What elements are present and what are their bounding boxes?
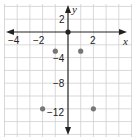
coordinate-plane: −4 −2 2 x 2 −4 −8 −12 y <box>0 0 133 140</box>
y-tick-label-neg12: −12 <box>47 107 64 118</box>
x-tick-label-neg4: −4 <box>8 35 20 46</box>
point-2-neg12 <box>91 106 96 111</box>
point-neg2-neg12 <box>40 106 45 111</box>
x-tick-label-2: 2 <box>90 35 96 46</box>
y-axis-down-arrow-icon <box>65 127 71 135</box>
y-tick-label-neg4: −4 <box>53 53 65 64</box>
y-tick-label-2: 2 <box>59 14 65 25</box>
x-tick-label-neg2: −2 <box>33 35 45 46</box>
y-axis-label: y <box>71 3 77 15</box>
point-origin <box>65 29 70 34</box>
point-1-neg3 <box>78 49 83 54</box>
point-neg1-neg3 <box>53 49 58 54</box>
y-tick-label-neg8: −8 <box>53 78 65 89</box>
x-axis-label: x <box>122 35 128 47</box>
